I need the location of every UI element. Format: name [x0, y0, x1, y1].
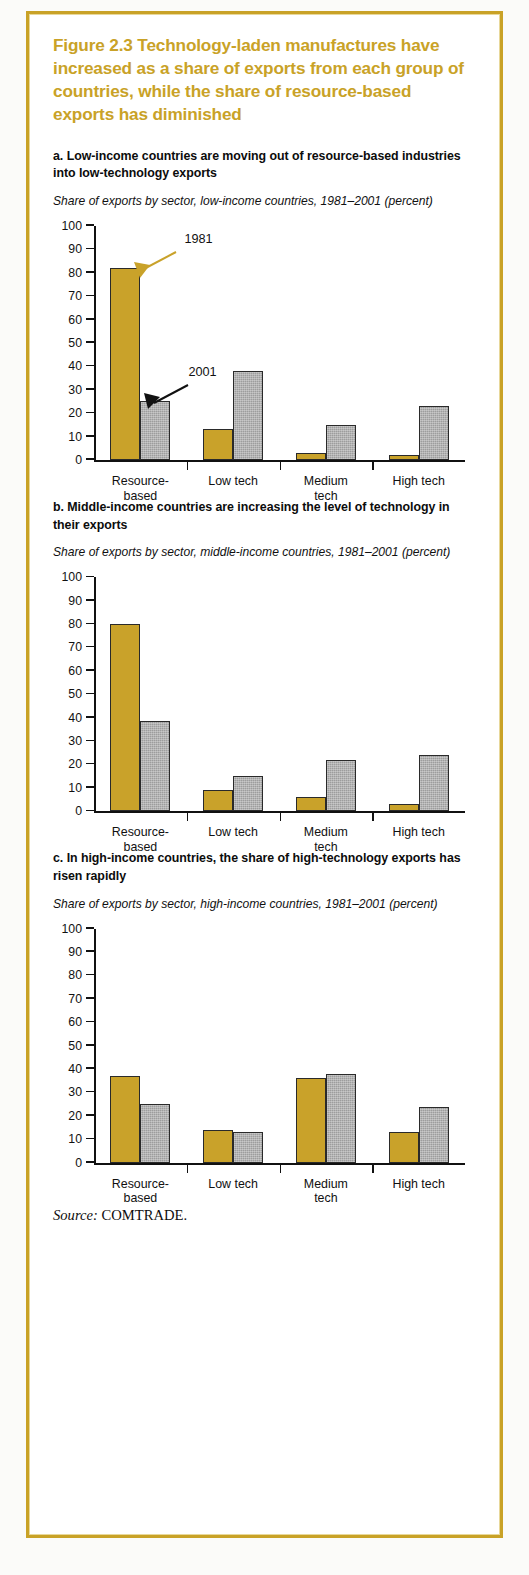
- y-axis-tick: [86, 435, 94, 437]
- panel-b-heading: b. Middle-income countries are increasin…: [53, 499, 461, 534]
- y-axis: [94, 929, 96, 1165]
- y-axis-label: 30: [52, 1085, 82, 1099]
- bar-2001-medium-tech: [326, 425, 356, 460]
- x-axis-tick: [372, 813, 374, 821]
- bar-2001-high-tech: [419, 406, 449, 460]
- figure-page: Figure 2.3 Technology-laden manufactures…: [0, 0, 529, 1575]
- x-axis-category-label: High tech: [364, 474, 474, 489]
- panel-a: a. Low-income countries are moving out o…: [53, 148, 473, 493]
- bar-1981-medium-tech: [296, 797, 326, 811]
- y-axis-label: 90: [52, 242, 82, 256]
- y-axis-tick: [86, 1161, 94, 1163]
- y-axis-tick: [86, 224, 94, 226]
- x-axis-category-label: High tech: [364, 825, 474, 840]
- panel-b: b. Middle-income countries are increasin…: [53, 499, 473, 844]
- y-axis-tick: [86, 716, 94, 718]
- y-axis-tick: [86, 763, 94, 765]
- annotation-1981-label: 1981: [184, 232, 212, 246]
- x-axis-tick: [372, 462, 374, 470]
- y-axis-label: 100: [52, 219, 82, 233]
- y-axis-tick: [86, 318, 94, 320]
- y-axis-label: 80: [52, 617, 82, 631]
- y-axis-label: 10: [52, 781, 82, 795]
- bar-1981-medium-tech: [296, 1078, 326, 1162]
- panel-c: c. In high-income countries, the share o…: [53, 850, 473, 1192]
- panel-b-chart: 0102030405060708090100Resource- basedLow…: [53, 569, 473, 844]
- y-axis-tick: [86, 1021, 94, 1023]
- panel-b-plot-area: 0102030405060708090100Resource- basedLow…: [94, 577, 465, 813]
- y-axis-label: 40: [52, 1062, 82, 1076]
- y-axis-tick: [86, 248, 94, 250]
- bar-1981-low-tech: [203, 429, 233, 459]
- y-axis-label: 50: [52, 336, 82, 350]
- bar-1981-high-tech: [389, 1132, 419, 1162]
- y-axis-label: 50: [52, 687, 82, 701]
- y-axis-tick: [86, 576, 94, 578]
- y-axis-tick: [86, 295, 94, 297]
- y-axis-tick: [86, 669, 94, 671]
- bar-2001-resource--based: [140, 1104, 170, 1163]
- bar-1981-resource--based: [110, 624, 140, 811]
- y-axis-label: 70: [52, 289, 82, 303]
- bar-1981-high-tech: [389, 455, 419, 460]
- bar-2001-high-tech: [419, 755, 449, 811]
- y-axis-label: 100: [52, 570, 82, 584]
- y-axis-tick: [86, 341, 94, 343]
- panel-a-chart: 0102030405060708090100Resource- basedLow…: [53, 218, 473, 493]
- y-axis-label: 40: [52, 711, 82, 725]
- y-axis-tick: [86, 1044, 94, 1046]
- y-axis-tick: [86, 388, 94, 390]
- y-axis-label: 80: [52, 266, 82, 280]
- y-axis-tick: [86, 997, 94, 999]
- y-axis-tick: [86, 365, 94, 367]
- panel-b-subtitle: Share of exports by sector, middle-incom…: [53, 544, 453, 561]
- panel-a-plot-area: 0102030405060708090100Resource- basedLow…: [94, 226, 465, 462]
- y-axis-tick: [86, 646, 94, 648]
- bar-1981-low-tech: [203, 1130, 233, 1163]
- y-axis-tick: [86, 927, 94, 929]
- y-axis-label: 10: [52, 1132, 82, 1146]
- y-axis-tick: [86, 623, 94, 625]
- y-axis-tick: [86, 271, 94, 273]
- bar-1981-resource--based: [110, 1076, 140, 1163]
- y-axis-label: 30: [52, 383, 82, 397]
- annotation-2001-arrow-icon: [134, 383, 194, 417]
- x-axis-tick: [280, 1165, 282, 1173]
- y-axis-tick: [86, 458, 94, 460]
- y-axis-label: 20: [52, 1109, 82, 1123]
- bar-1981-medium-tech: [296, 453, 326, 460]
- figure-content: Figure 2.3 Technology-laden manufactures…: [53, 34, 473, 1224]
- y-axis-label: 0: [52, 453, 82, 467]
- bar-2001-high-tech: [419, 1107, 449, 1163]
- panel-a-heading: a. Low-income countries are moving out o…: [53, 148, 461, 183]
- x-axis-tick: [280, 813, 282, 821]
- y-axis-label: 10: [52, 430, 82, 444]
- y-axis-label: 0: [52, 1156, 82, 1170]
- panel-c-subtitle: Share of exports by sector, high-income …: [53, 896, 453, 913]
- y-axis-tick: [86, 974, 94, 976]
- y-axis-tick: [86, 810, 94, 812]
- y-axis-label: 70: [52, 640, 82, 654]
- bar-2001-medium-tech: [326, 760, 356, 811]
- y-axis-label: 70: [52, 992, 82, 1006]
- y-axis-label: 20: [52, 757, 82, 771]
- y-axis-tick: [86, 740, 94, 742]
- source-value: COMTRADE.: [98, 1207, 187, 1223]
- annotation-2001-label: 2001: [188, 365, 216, 379]
- y-axis-label: 20: [52, 406, 82, 420]
- annotation-1981-arrow-icon: [124, 248, 184, 282]
- y-axis-label: 90: [52, 945, 82, 959]
- y-axis-tick: [86, 1138, 94, 1140]
- bar-2001-low-tech: [233, 776, 263, 811]
- y-axis-tick: [86, 950, 94, 952]
- y-axis-label: 0: [52, 804, 82, 818]
- bar-1981-resource--based: [110, 268, 140, 460]
- y-axis-tick: [86, 786, 94, 788]
- y-axis-label: 50: [52, 1039, 82, 1053]
- y-axis-label: 30: [52, 734, 82, 748]
- y-axis-label: 60: [52, 664, 82, 678]
- y-axis-tick: [86, 412, 94, 414]
- bar-2001-low-tech: [233, 1132, 263, 1162]
- panel-a-subtitle: Share of exports by sector, low-income c…: [53, 193, 453, 210]
- x-axis-tick: [372, 1165, 374, 1173]
